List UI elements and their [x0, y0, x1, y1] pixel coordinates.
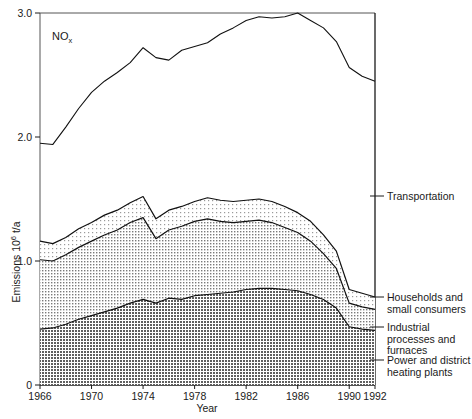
svg-text:NOx: NOx: [52, 30, 73, 45]
nox-emissions-chart: 01.02.03.0 19661970197419781982198619901…: [0, 0, 472, 419]
series-label-industrial-processes-and-furnaces: processes and: [387, 333, 455, 345]
y-axis-title-main: Emissions 10: [10, 240, 22, 303]
series-label-industrial-processes-and-furnaces: furnaces: [387, 344, 427, 356]
series-label-power-and-district-heating-plants: heating plants: [387, 366, 452, 378]
x-tick-label: 1974: [131, 390, 155, 402]
y-axis-title: Emissions 106 t/a: [9, 221, 22, 302]
series-label-industrial-processes-and-furnaces: Industrial: [387, 321, 430, 333]
x-tick-label: 1992: [363, 390, 387, 402]
stacked-areas: [40, 197, 375, 385]
series-label-households-and-small-consumers: Households and: [387, 291, 463, 303]
y-axis-title-tail: t/a: [10, 221, 22, 236]
transportation-total-line: [40, 13, 375, 144]
x-axis-title: Year: [196, 402, 218, 414]
x-tick-label: 1978: [183, 390, 207, 402]
x-tick-label: 1990: [338, 390, 362, 402]
chart-canvas: 01.02.03.0 19661970197419781982198619901…: [0, 0, 472, 419]
x-tick-label: 1966: [28, 390, 52, 402]
x-tick-label: 1986: [286, 390, 310, 402]
y-tick-label: 0: [26, 379, 32, 391]
series-labels: Power and districtheating plantsIndustri…: [370, 190, 471, 378]
series-label-households-and-small-consumers: small consumers: [387, 303, 466, 315]
nox-annotation: NOx: [52, 30, 73, 45]
x-tick-label: 1982: [234, 390, 258, 402]
y-axis-ticks: 01.02.03.0: [17, 7, 40, 391]
y-tick-label: 2.0: [17, 131, 32, 143]
svg-text:Emissions 106 t/a: Emissions 106 t/a: [9, 221, 22, 302]
x-axis-ticks: 19661970197419781982198619901992: [28, 385, 387, 402]
y-tick-label: 3.0: [17, 7, 32, 19]
nox-annotation-subscript: x: [69, 36, 73, 45]
total-line: [40, 13, 375, 144]
series-label-transportation: Transportation: [387, 190, 454, 202]
x-tick-label: 1970: [80, 390, 104, 402]
nox-annotation-base: NO: [52, 30, 69, 42]
